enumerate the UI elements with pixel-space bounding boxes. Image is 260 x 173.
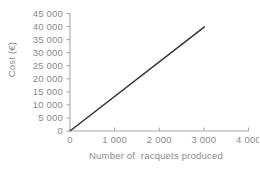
x-axis-title: Number of racquets produced — [56, 150, 256, 161]
x-axis-tick-label: 3 000 — [182, 134, 226, 145]
data-series-line — [70, 27, 205, 131]
data-line-segment — [70, 27, 205, 131]
x-axis-tick-label: 4 000 — [227, 134, 260, 145]
x-axis-tick-label: 0 — [48, 134, 92, 145]
x-axis-tick-labels: 01 0002 0003 0004 000 — [0, 134, 259, 148]
x-axis-tick-label: 1 000 — [93, 134, 137, 145]
x-axis-tick-label: 2 000 — [137, 134, 181, 145]
axis-lines — [70, 13, 249, 131]
line-chart: Cost (€) 05 00010 00015 00020 00025 0003… — [0, 0, 259, 173]
